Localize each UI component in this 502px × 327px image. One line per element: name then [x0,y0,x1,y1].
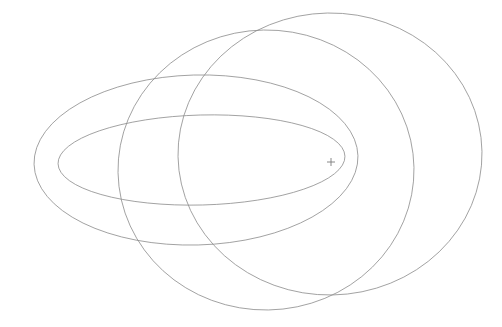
canvas-background [0,0,502,327]
diagram-canvas [0,0,502,327]
orbit-diagram-svg [0,0,502,327]
